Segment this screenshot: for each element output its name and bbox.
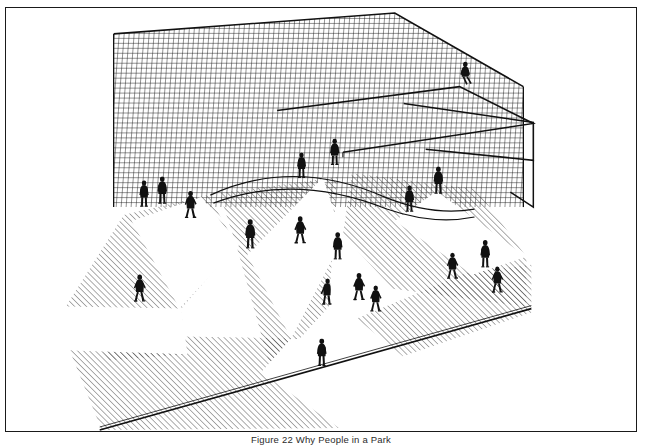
figure-caption-text: Figure 22 Why People in a Park: [5, 434, 637, 446]
figure-page: Figure 22 Why People in a Park: [0, 0, 645, 446]
figure-caption: Figure 22 Why People in a Park: [5, 434, 637, 446]
figure-frame: [5, 7, 637, 432]
light-notch-left: [68, 307, 188, 355]
plaza-illustration: [6, 8, 636, 431]
